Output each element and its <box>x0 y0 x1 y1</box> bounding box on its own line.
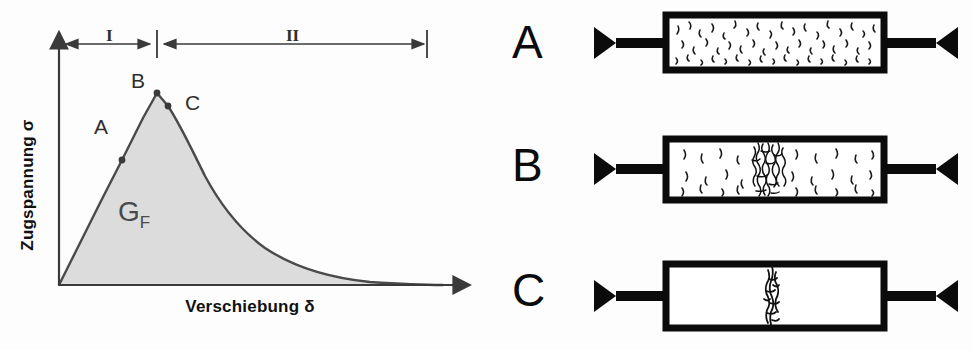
y-axis-label: Zugspannung σ <box>18 85 38 285</box>
curve-point-C <box>165 103 172 110</box>
specimen-C-group <box>594 264 958 328</box>
specimen-B-left-arrow <box>594 153 668 185</box>
curve-point-B <box>154 90 161 97</box>
region-label-I: I <box>106 26 113 46</box>
fracture-energy-area <box>59 93 443 285</box>
specimen-svg <box>486 0 972 350</box>
specimen-A-group <box>594 15 958 70</box>
fracture-energy-symbol: G <box>118 196 140 227</box>
specimen-letter-A: A <box>512 19 543 65</box>
x-axis-label: Verschiebung δ <box>140 297 360 317</box>
specimen-C-right-arrow <box>884 280 958 312</box>
specimen-letter-C: C <box>512 267 545 313</box>
curve-point-A <box>119 157 126 164</box>
specimen-B-group <box>594 139 958 200</box>
specimen-B-body <box>666 139 884 200</box>
fracture-energy-label: GF <box>118 196 150 233</box>
point-label-B: B <box>131 69 145 93</box>
point-label-A: A <box>94 115 108 139</box>
specimen-diagrams: A B C <box>486 0 972 350</box>
stress-displacement-chart: I II A B C GF Zugspannung σ Verschiebung… <box>0 0 486 350</box>
specimen-A-left-arrow <box>594 27 668 59</box>
fracture-energy-subscript: F <box>140 213 150 232</box>
specimen-letter-B: B <box>512 142 543 188</box>
region-label-II: II <box>286 26 299 46</box>
point-label-C: C <box>185 91 200 115</box>
specimen-A-right-arrow <box>884 27 958 59</box>
specimen-B-right-arrow <box>884 153 958 185</box>
figure-root: I II A B C GF Zugspannung σ Verschiebung… <box>0 0 972 350</box>
specimen-C-left-arrow <box>594 280 668 312</box>
